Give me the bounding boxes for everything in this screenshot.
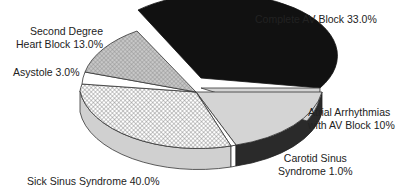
label-second-degree-line2: Heart Block 13.0% (16, 38, 103, 51)
label-carotid-line2: Syndrome 1.0% (278, 165, 353, 178)
label-atrial-arrhythmias: Atrial Arrhythmias with AV Block 10% (308, 106, 395, 132)
label-complete-av-text: Complete AV Block 33.0% (255, 13, 377, 26)
label-atrial-line2: with AV Block 10% (308, 119, 395, 132)
side-carotid (231, 145, 236, 167)
label-atrial-line1: Atrial Arrhythmias (308, 106, 395, 119)
label-asystole: Asystole 3.0% (13, 66, 80, 79)
label-second-degree-line1: Second Degree (16, 25, 103, 38)
label-carotid-line1: Carotid Sinus (278, 152, 353, 165)
label-asystole-text: Asystole 3.0% (13, 66, 80, 79)
label-second-degree: Second Degree Heart Block 13.0% (16, 25, 103, 51)
label-carotid-sinus: Carotid Sinus Syndrome 1.0% (278, 152, 353, 178)
label-complete-av-block: Complete AV Block 33.0% (255, 13, 377, 26)
label-sick-sinus: Sick Sinus Syndrome 40.0% (27, 175, 159, 188)
label-sick-sinus-text: Sick Sinus Syndrome 40.0% (27, 175, 159, 188)
